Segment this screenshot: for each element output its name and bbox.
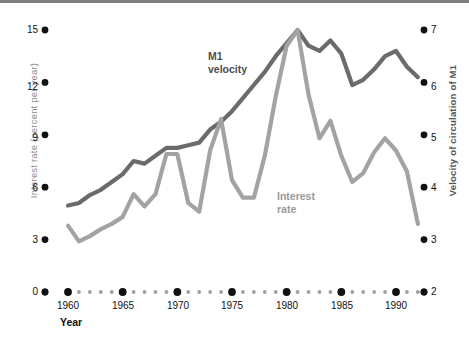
x-tick-dot-1981 [296, 290, 300, 294]
chart-figure: Interest rate (percent per year) Velocit… [0, 0, 469, 343]
x-tick-dot-1971 [186, 290, 190, 294]
x-tick-label-1965: 1965 [103, 300, 143, 311]
x-tick-dot-1991 [405, 290, 409, 294]
x-tick-dot-1960 [64, 288, 72, 296]
x-tick-dot-1973 [208, 290, 212, 294]
x-tick-label-1980: 1980 [267, 300, 307, 311]
y-right-tick-dot-6 [421, 79, 428, 86]
y-tick-label-9: 9 [8, 132, 38, 143]
y-right-tick-dot-7 [421, 27, 428, 34]
x-tick-dot-1983 [318, 290, 322, 294]
x-tick-dot-1980 [283, 288, 291, 296]
y-tick-dot-9 [42, 131, 49, 138]
x-tick-dot-1970 [173, 288, 181, 296]
y-axis-left-tick-dots [42, 27, 49, 296]
x-tick-dot-1992 [416, 290, 420, 294]
series-annotation-interest-rate-line1: Interest [277, 190, 315, 202]
x-origin-dot [42, 289, 49, 296]
x-tick-dot-1975 [228, 288, 236, 296]
y-right-tick-label-5: 5 [431, 132, 437, 143]
y-tick-dot-15 [42, 27, 49, 34]
x-tick-dot-1988 [372, 290, 376, 294]
series-annotation-m1-velocity: M1 velocity [208, 50, 247, 76]
x-tick-dot-1976 [241, 290, 245, 294]
y-right-tick-label-4: 4 [431, 182, 437, 193]
series-annotation-m1-velocity-line2: velocity [208, 63, 247, 75]
x-axis-title: Year [60, 316, 82, 328]
x-tick-dot-1990 [392, 288, 400, 296]
y-right-tick-label-3: 3 [431, 234, 437, 245]
y-tick-label-12: 12 [8, 81, 38, 92]
series-annotation-m1-velocity-line1: M1 [208, 50, 223, 62]
x-tick-dot-1967 [143, 290, 147, 294]
x-tick-label-1985: 1985 [322, 300, 362, 311]
x-tick-dot-1974 [219, 290, 223, 294]
x-tick-dot-1979 [274, 290, 278, 294]
y-right-tick-dot-5 [421, 131, 428, 138]
x-tick-dot-1965 [119, 288, 127, 296]
y-tick-dot-3 [42, 236, 49, 243]
y-axis-right-title: Velocity of circulation of M1 [447, 36, 458, 226]
x-tick-dot-1982 [307, 290, 311, 294]
x-tick-label-1970: 1970 [158, 300, 198, 311]
y-tick-label-3: 3 [8, 234, 38, 245]
x-tick-dot-1968 [154, 290, 158, 294]
x-tick-dot-1986 [350, 290, 354, 294]
x-axis-tick-dots [42, 288, 428, 296]
x-tick-dot-1964 [110, 290, 114, 294]
y-tick-label-6: 6 [8, 182, 38, 193]
x-tick-dot-1987 [361, 290, 365, 294]
series-annotation-interest-rate-line2: rate [277, 203, 296, 215]
x-tick-dot-1977 [252, 290, 256, 294]
x-tick-dot-1963 [99, 290, 103, 294]
y-tick-dot-6 [42, 184, 49, 191]
x-tick-dot-1969 [165, 290, 169, 294]
x-tick-dot-1984 [329, 290, 333, 294]
x-tick-label-1960: 1960 [48, 300, 88, 311]
x-tick-label-1990: 1990 [376, 300, 416, 311]
y-right-tick-label-2: 2 [431, 286, 437, 297]
y-right-tick-label-6: 6 [431, 81, 437, 92]
x-tick-dot-1985 [337, 288, 345, 296]
x-tick-label-1975: 1975 [212, 300, 252, 311]
x-tick-dot-1972 [197, 290, 201, 294]
x-tick-dot-1978 [263, 290, 267, 294]
y-tick-label-0: 0 [8, 286, 38, 297]
y-right-tick-dot-3 [421, 236, 428, 243]
x-tick-dot-1966 [132, 290, 136, 294]
x-tick-dot-1961 [77, 290, 81, 294]
x-tick-dot-1962 [88, 290, 92, 294]
y-tick-dot-12 [42, 79, 49, 86]
y-axis-right-tick-dots [421, 27, 428, 296]
series-annotation-interest-rate: Interest rate [277, 190, 315, 216]
y-right-tick-label-7: 7 [431, 24, 437, 35]
y-axis-left-title: Interest rate (percent per year) [28, 36, 39, 226]
x-end-dot [421, 289, 428, 296]
y-tick-label-15: 15 [8, 24, 38, 35]
x-tick-dot-1989 [383, 290, 387, 294]
y-right-tick-dot-4 [421, 184, 428, 191]
